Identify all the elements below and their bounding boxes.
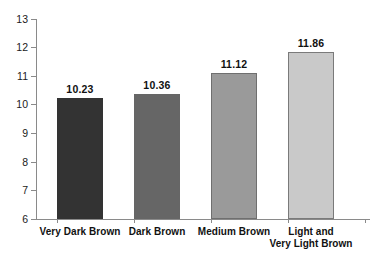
x-tick-1 bbox=[134, 219, 135, 223]
y-tick-11 bbox=[31, 76, 36, 77]
x-axis-line bbox=[36, 219, 370, 220]
bar-value-label-2: 11.12 bbox=[211, 59, 257, 70]
bar-dark-brown bbox=[134, 94, 180, 219]
bar-light-and-very-light-brown bbox=[288, 52, 334, 219]
x-tick-3 bbox=[288, 219, 289, 223]
y-tick-label-10: 10 bbox=[0, 99, 28, 109]
x-tick-2 bbox=[211, 219, 212, 223]
x-tick-0 bbox=[57, 219, 58, 223]
category-label-3: Light and Very Light Brown bbox=[257, 226, 365, 250]
bar-value-label-0: 10.23 bbox=[57, 84, 103, 95]
y-tick-8 bbox=[31, 162, 36, 163]
y-tick-label-13: 13 bbox=[0, 14, 28, 24]
y-tick-7 bbox=[31, 190, 36, 191]
y-axis-line bbox=[36, 19, 37, 220]
x-tick-4 bbox=[365, 219, 366, 223]
bar-medium-brown bbox=[211, 73, 257, 219]
y-tick-13 bbox=[31, 19, 36, 20]
y-tick-label-9: 9 bbox=[0, 128, 28, 138]
y-tick-label-7: 7 bbox=[0, 185, 28, 195]
y-tick-label-6: 6 bbox=[0, 214, 28, 224]
category-label-3-line-0: Light and bbox=[257, 226, 365, 238]
category-label-3-line-1: Very Light Brown bbox=[257, 238, 365, 250]
y-tick-10 bbox=[31, 104, 36, 105]
y-tick-label-8: 8 bbox=[0, 157, 28, 167]
y-tick-label-12: 12 bbox=[0, 42, 28, 52]
bar-chart: 13 12 11 10 9 8 7 6 10.23 10.36 11.12 11… bbox=[0, 0, 378, 258]
y-tick-label-11: 11 bbox=[0, 71, 28, 81]
bar-value-label-1: 10.36 bbox=[134, 80, 180, 91]
bar-value-label-3: 11.86 bbox=[288, 38, 334, 49]
y-tick-9 bbox=[31, 133, 36, 134]
y-tick-12 bbox=[31, 47, 36, 48]
bar-very-dark-brown bbox=[57, 98, 103, 219]
